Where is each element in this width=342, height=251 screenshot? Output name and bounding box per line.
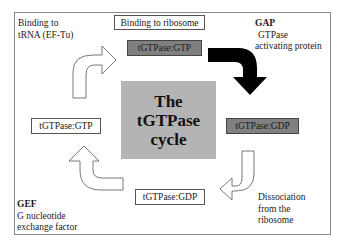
curved-arrow-left-up-icon: [0, 0, 342, 251]
